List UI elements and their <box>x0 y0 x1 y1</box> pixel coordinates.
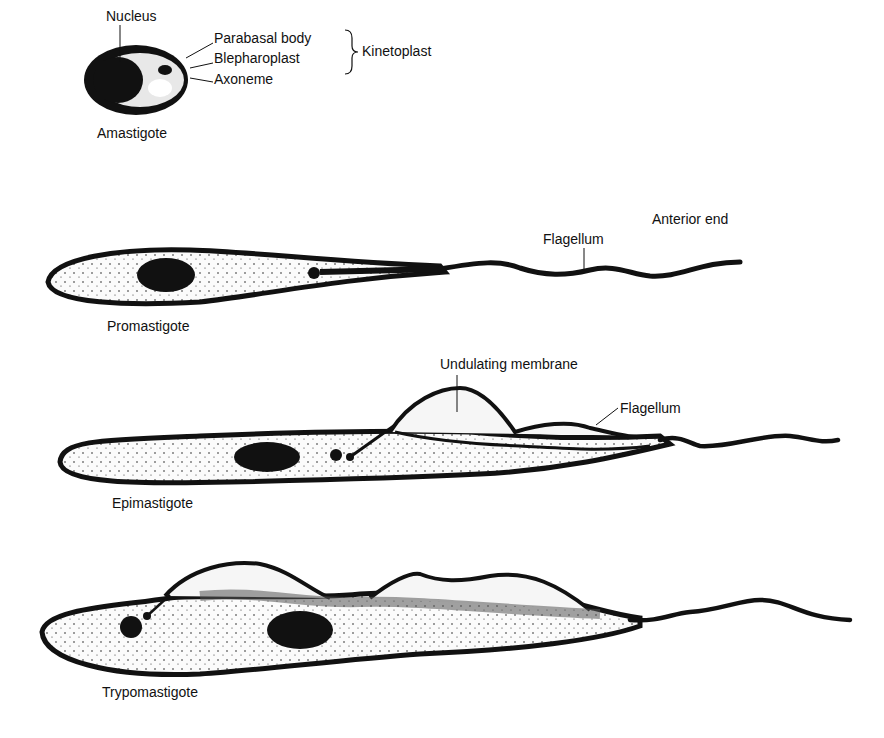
label-parabasal-body: Parabasal body <box>214 30 311 46</box>
epimastigote-flagellum <box>660 436 838 446</box>
kinetoplast-brace <box>345 30 358 74</box>
label-axoneme: Axoneme <box>214 71 273 87</box>
promastigote-nucleus <box>137 258 195 292</box>
trypomastigote-nucleus <box>267 611 333 649</box>
label-promastigote: Promastigote <box>107 318 189 334</box>
trypomastigote-flagellum <box>630 600 850 620</box>
amastigote-nucleus <box>93 57 143 103</box>
epimastigote-nucleus <box>234 442 300 472</box>
trypomastigote-cell <box>42 563 850 675</box>
label-kinetoplast: Kinetoplast <box>362 43 431 59</box>
label-epimastigote: Epimastigote <box>112 495 193 511</box>
label-blepharoplast: Blepharoplast <box>214 50 300 66</box>
promastigote-flagellum <box>440 262 740 276</box>
label-trypomastigote: Trypomastigote <box>102 684 198 700</box>
label-flagellum-promastigote: Flagellum <box>543 231 604 247</box>
promastigote-cell <box>48 248 740 304</box>
label-undulating-membrane: Undulating membrane <box>440 356 578 372</box>
label-flagellum-epimastigote: Flagellum <box>620 400 681 416</box>
epimastigote-cell <box>60 375 838 483</box>
promastigote-kinetoplast <box>308 267 320 279</box>
label-amastigote: Amastigote <box>97 125 167 141</box>
amastigote-kinetoplast <box>158 65 172 75</box>
label-nucleus: Nucleus <box>106 8 157 24</box>
label-anterior-end: Anterior end <box>652 211 728 227</box>
